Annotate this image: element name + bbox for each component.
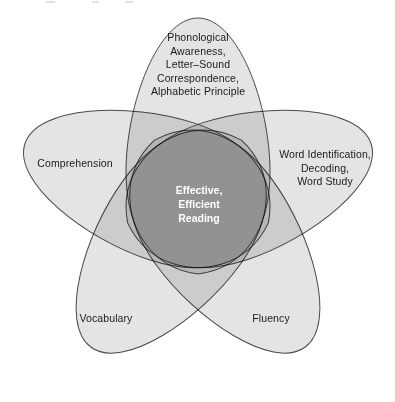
reading-diagram: Phonological Awareness, Letter–Sound Cor…: [0, 0, 395, 402]
scan-artifact: [125, 1, 133, 3]
petal-group: [3, 18, 394, 390]
scan-artifact: [92, 1, 99, 3]
petal-shapes-svg: [0, 0, 395, 402]
scan-artifact: [46, 1, 55, 3]
